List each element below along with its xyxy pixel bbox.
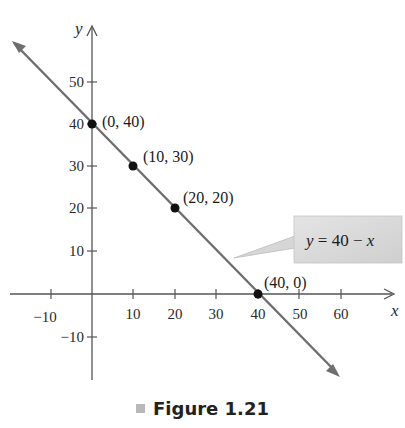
point-label: (40, 0) [264,274,307,292]
y-tick-label: 10 [69,243,84,259]
y-axis-label: y [73,19,83,38]
x-tick-label: 20 [168,306,183,322]
x-axis: −10 10 20 30 40 50 60 x [10,289,399,325]
point-label: (10, 30) [143,148,194,166]
line-arrow-end-icon [326,364,340,377]
x-tick-label: 10 [126,306,141,322]
point-label: (0, 40) [102,113,145,131]
data-point [171,204,180,213]
x-axis-label: x [390,301,399,320]
x-tick-label: 60 [334,306,349,322]
data-point [129,162,138,171]
equation-callout: y = 40 − x [234,216,402,263]
x-tick-label: 30 [209,306,224,322]
figure-caption: Figure 1.21 [0,398,405,419]
caption-square-icon [136,404,145,413]
y-tick-label: 50 [69,74,84,90]
point-label: (20, 20) [183,189,234,207]
y-axis: 50 40 30 20 10 −10 y [61,19,97,380]
caption-text: Figure 1.21 [153,398,269,419]
chart-canvas: −10 10 20 30 40 50 60 x 50 40 30 20 10 −… [0,0,405,428]
equation-text: y = 40 − x [304,231,375,250]
y-tick-label: 20 [69,200,84,216]
x-tick-label: 50 [293,306,308,322]
data-points: (0, 40) (10, 30) (20, 20) (40, 0) [88,113,307,299]
y-tick-label: 30 [69,158,84,174]
x-tick-label: −10 [33,309,56,325]
data-point [88,120,97,129]
y-tick-label: −10 [61,329,84,345]
y-tick-label: 40 [69,116,84,132]
x-tick-label: 40 [251,306,266,322]
line-arrow-start-icon [12,41,26,53]
data-point [254,290,263,299]
